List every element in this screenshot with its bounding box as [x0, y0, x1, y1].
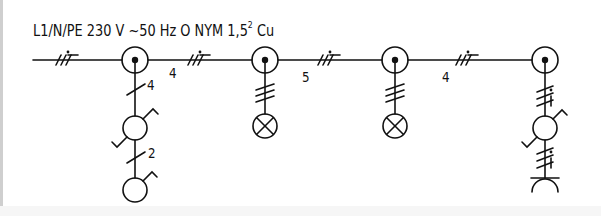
lamp-icon: [253, 114, 277, 138]
circuit-schematic: [0, 0, 601, 216]
conductor-with-pe-tick-icon: [537, 86, 553, 106]
conductor-marker-icon: [318, 51, 340, 65]
triple-conductor-tick-icon: [256, 84, 274, 102]
conductor-with-pe-tick-icon: [537, 148, 553, 168]
lamp-icon: [383, 114, 407, 138]
switch-icon: [123, 172, 157, 202]
conductor-marker-icon: [188, 51, 210, 65]
socket-outlet-icon: [531, 178, 559, 192]
conductor-marker-icon: [456, 51, 478, 65]
triple-conductor-tick-icon: [386, 84, 404, 102]
single-conductor-tick-icon: [127, 84, 145, 95]
conductor-marker-icon: [56, 51, 78, 65]
single-conductor-tick-icon: [127, 152, 145, 163]
